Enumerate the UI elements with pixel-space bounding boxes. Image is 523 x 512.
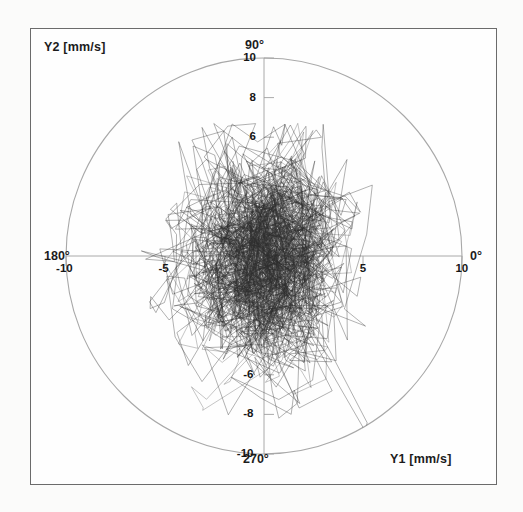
angle-label-90: 90° xyxy=(245,38,264,52)
polar-plot-canvas xyxy=(0,0,523,512)
tick-label-y-6: 6 xyxy=(250,130,256,142)
y1-axis-label: Y1 [mm/s] xyxy=(390,452,452,466)
tick-label-y-10: 10 xyxy=(243,51,256,63)
polar-velocity-figure: Y2 [mm/s] Y1 [mm/s] 90° 270° 180° 0° 108… xyxy=(0,0,523,512)
tick-label-x-10: 10 xyxy=(455,262,468,274)
velocity-trajectory-trace xyxy=(141,123,372,432)
tick-label-x-5: 5 xyxy=(360,262,366,274)
tick-label-y-neg10: -10 xyxy=(237,447,254,459)
tick-label-x-neg10: -10 xyxy=(56,262,73,274)
y2-axis-label: Y2 [mm/s] xyxy=(44,40,106,54)
tick-label-y-neg6: -6 xyxy=(243,368,253,380)
angle-label-180: 180° xyxy=(44,249,70,263)
tick-label-y-neg8: -8 xyxy=(243,407,253,419)
angle-label-0: 0° xyxy=(470,249,482,263)
tick-label-y-8: 8 xyxy=(250,91,256,103)
tick-label-x-neg5: -5 xyxy=(158,262,168,274)
